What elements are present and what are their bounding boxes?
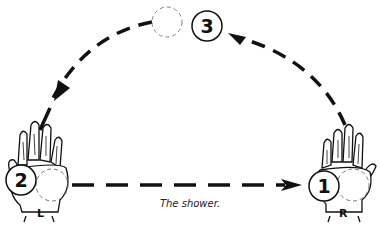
arrowhead-top-right [228,33,246,45]
diagram-caption: The shower. [0,198,380,209]
arc-right-to-top [240,38,345,125]
arrowhead-left [54,80,70,101]
shower-diagram: 3 2 [0,0,380,227]
ghost-ball-top [152,7,182,37]
ball-1-number: 1 [317,175,330,197]
ball-3-number: 3 [200,15,213,37]
diagram-canvas: 3 2 [0,0,380,227]
ball-2-number: 2 [14,169,27,191]
